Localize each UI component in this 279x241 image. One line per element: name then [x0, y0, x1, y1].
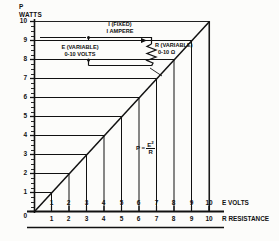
x-e-tick-label-1: 1 [45, 199, 58, 206]
x-e-tick-label-7: 7 [150, 199, 163, 206]
formula-fraction: E2 R [146, 141, 155, 156]
y-tick-label-10: 10 [8, 17, 27, 24]
junction-dot-bottom [87, 59, 90, 62]
junction-dot-top [87, 36, 90, 39]
x-e-tick-label-4: 4 [97, 199, 110, 206]
x-r-tick-label-7: 7 [150, 215, 163, 222]
x-r-tick-label-9: 9 [185, 215, 198, 222]
y-tick-label-7: 7 [8, 74, 27, 81]
x-axis-name-e-volts: E VOLTS [222, 199, 249, 206]
x-e-tick-label-5: 5 [115, 199, 128, 206]
x-e-tick-label-10: 10 [202, 199, 216, 206]
y-tick-label-6: 6 [8, 93, 27, 100]
y-tick-label-0: 0 [8, 212, 27, 219]
formula-denominator: R [146, 149, 155, 156]
x-e-tick-label-9: 9 [185, 199, 198, 206]
circuit-current-label-line2: I AMPERE [85, 28, 155, 34]
y-tick-label-1: 1 [8, 188, 27, 195]
x-r-tick-label-2: 2 [62, 215, 75, 222]
circuit-current-label-line1: I (FIXED) [85, 21, 155, 27]
diagram-canvas: P WATTS [0, 0, 279, 241]
formula-lhs: P = [136, 145, 145, 151]
x-axis-name-r-resistance: R RESISTANCE [222, 215, 269, 222]
y-tick-label-3: 3 [8, 150, 27, 157]
x-e-tick-label-2: 2 [62, 199, 75, 206]
y-tick-label-2: 2 [8, 169, 27, 176]
x-r-tick-label-3: 3 [80, 215, 93, 222]
x-r-tick-label-5: 5 [115, 215, 128, 222]
x-e-tick-label-6: 6 [132, 199, 145, 206]
y-tick-label-8: 8 [8, 55, 27, 62]
x-r-tick-label-10: 10 [202, 215, 216, 222]
circuit-resistor-label-line1: R (VARIABLE) [155, 42, 205, 48]
x-r-tick-label-8: 8 [167, 215, 180, 222]
x-e-tick-label-3: 3 [80, 199, 93, 206]
y-tick-label-9: 9 [8, 36, 27, 43]
y-tick-label-5: 5 [8, 112, 27, 119]
circuit-source-label-line2: 0-10 VOLTS [40, 51, 120, 57]
formula-p-equals-e-squared-over-r: P = E2 R [136, 141, 155, 156]
resistor-label-leader [150, 68, 162, 76]
y-tick-label-4: 4 [8, 131, 27, 138]
x-r-tick-label-1: 1 [45, 215, 58, 222]
formula-exponent: 2 [151, 140, 153, 145]
circuit-resistor-label-line2: 0-10 Ω [158, 49, 208, 55]
x-r-tick-label-4: 4 [97, 215, 110, 222]
x-e-tick-label-8: 8 [167, 199, 180, 206]
x-r-tick-label-6: 6 [132, 215, 145, 222]
circuit-source-label-line1: E (VARIABLE) [40, 44, 120, 50]
horizontal-projectors [35, 41, 192, 193]
